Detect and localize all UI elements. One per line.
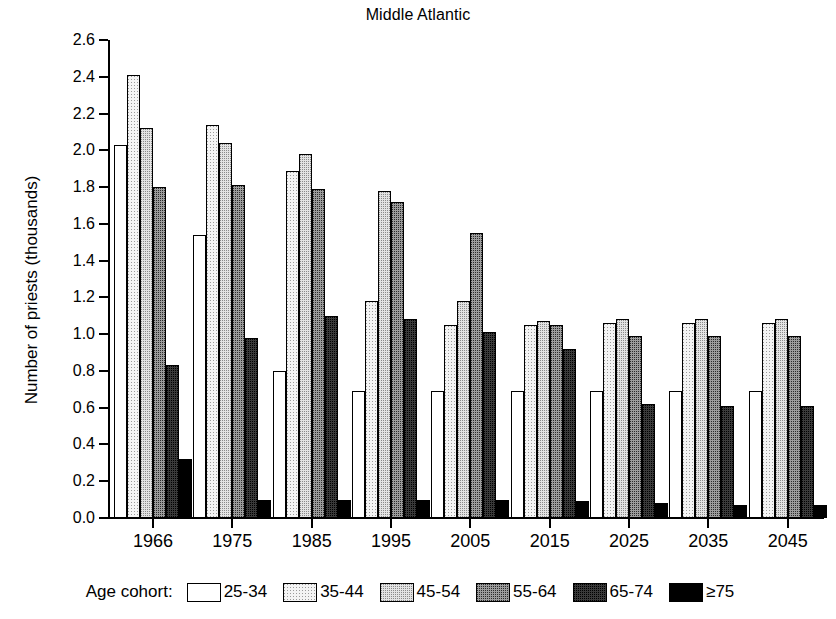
bar-1975-25-34	[193, 235, 206, 518]
y-axis-tick	[99, 39, 108, 41]
legend-label: 65-74	[610, 582, 653, 602]
bar-1966-55-64	[153, 187, 166, 518]
bar-2025-35-44	[603, 323, 616, 518]
legend-items: 25-3435-4445-5455-6465-74≥75	[187, 582, 751, 602]
x-axis-tick	[390, 519, 392, 528]
bar-2005-45-54	[457, 301, 470, 518]
chart-legend: Age cohort: 25-3435-4445-5455-6465-74≥75	[0, 575, 836, 609]
bar-2045-45-54	[775, 319, 788, 518]
legend-swatch-icon	[187, 583, 221, 602]
bar-2015-25-34	[511, 391, 524, 518]
y-axis-tick	[99, 76, 108, 78]
bar-2025-≥75	[655, 503, 668, 518]
y-axis-tick-label: 1.6	[47, 216, 95, 232]
legend-title: Age cohort:	[86, 582, 173, 602]
legend-label: 55-64	[513, 582, 556, 602]
y-axis-tick	[99, 186, 108, 188]
y-axis-tick	[99, 149, 108, 151]
y-axis-tick	[99, 480, 108, 482]
bar-1995-55-64	[391, 202, 404, 518]
bar-2045-55-64	[788, 336, 801, 518]
y-axis-tick	[99, 443, 108, 445]
y-axis-tick-label: 0.4	[47, 436, 95, 452]
bar-2015-45-54	[537, 321, 550, 518]
legend-item-25-34[interactable]: 25-34	[187, 582, 267, 602]
y-axis-tick-label: 2.2	[47, 106, 95, 122]
x-axis-tick-label: 1985	[267, 531, 357, 552]
bar-2005-≥75	[496, 500, 509, 518]
x-axis-tick-label: 2015	[505, 531, 595, 552]
bar-2005-25-34	[431, 391, 444, 518]
y-axis-tick-label: 0.8	[47, 363, 95, 379]
bar-2005-65-74	[483, 332, 496, 518]
chart-title: Middle Atlantic	[0, 6, 836, 24]
y-axis-tick-label: 1.4	[47, 253, 95, 269]
legend-label: 45-54	[417, 582, 460, 602]
x-axis-tick-label: 2025	[584, 531, 674, 552]
y-axis-tick-label: 2.0	[47, 142, 95, 158]
bar-1985-≥75	[338, 500, 351, 518]
legend-item-45-54[interactable]: 45-54	[380, 582, 460, 602]
y-axis-tick	[99, 333, 108, 335]
bar-1966-45-54	[140, 128, 153, 518]
legend-swatch-icon	[476, 583, 510, 602]
bar-1995-35-44	[365, 301, 378, 518]
bar-2025-55-64	[629, 336, 642, 518]
bar-1975-65-74	[245, 338, 258, 518]
legend-label: 25-34	[224, 582, 267, 602]
x-axis-tick	[231, 519, 233, 528]
bar-2045-≥75	[814, 505, 827, 518]
bar-1985-65-74	[325, 316, 338, 518]
bar-1975-45-54	[219, 143, 232, 518]
y-axis-tick-label: 1.8	[47, 179, 95, 195]
y-axis-tick	[99, 113, 108, 115]
x-axis-tick-label: 1966	[108, 531, 198, 552]
y-axis-tick-label: 0.0	[47, 510, 95, 526]
bar-1985-45-54	[299, 154, 312, 518]
y-axis-tick	[99, 407, 108, 409]
bar-2045-65-74	[801, 406, 814, 518]
y-axis-tick-label: 0.2	[47, 473, 95, 489]
bar-1975-35-44	[206, 125, 219, 518]
bar-1995-25-34	[352, 391, 365, 518]
x-axis-tick	[787, 519, 789, 528]
bar-1995-≥75	[417, 500, 430, 518]
bar-2035-≥75	[734, 505, 747, 518]
x-axis-tick-label: 1975	[187, 531, 277, 552]
x-axis-tick	[549, 519, 551, 528]
x-axis-tick-label: 1995	[346, 531, 436, 552]
x-axis-tick-label: 2035	[663, 531, 753, 552]
y-axis-tick	[99, 223, 108, 225]
bar-2025-45-54	[616, 319, 629, 518]
bar-2035-65-74	[721, 406, 734, 518]
bar-2015-35-44	[524, 325, 537, 518]
x-axis-tick	[311, 519, 313, 528]
bar-2035-35-44	[682, 323, 695, 518]
legend-swatch-icon	[669, 583, 703, 602]
x-axis-tick-label: 2045	[743, 531, 833, 552]
bar-2005-55-64	[470, 233, 483, 518]
bar-2025-65-74	[642, 404, 655, 518]
bar-1995-45-54	[378, 191, 391, 518]
bar-2045-35-44	[762, 323, 775, 518]
x-axis-tick	[707, 519, 709, 528]
bar-1985-25-34	[273, 371, 286, 518]
bar-2015-65-74	[563, 349, 576, 518]
bar-2045-25-34	[749, 391, 762, 518]
bar-1985-55-64	[312, 189, 325, 518]
bar-1966-25-34	[114, 145, 127, 518]
legend-item-55-64[interactable]: 55-64	[476, 582, 556, 602]
legend-item-≥75[interactable]: ≥75	[669, 582, 734, 602]
legend-item-35-44[interactable]: 35-44	[283, 582, 363, 602]
bar-2015-55-64	[550, 325, 563, 518]
legend-label: 35-44	[320, 582, 363, 602]
x-axis-tick	[469, 519, 471, 528]
bar-1966-35-44	[127, 75, 140, 518]
x-axis-tick	[152, 519, 154, 528]
legend-swatch-icon	[573, 583, 607, 602]
y-axis-tick-label: 1.0	[47, 326, 95, 342]
legend-item-65-74[interactable]: 65-74	[573, 582, 653, 602]
legend-swatch-icon	[380, 583, 414, 602]
y-axis-tick	[99, 296, 108, 298]
y-axis-tick-labels: 0.00.20.40.60.81.01.21.41.61.82.02.22.42…	[40, 0, 95, 619]
